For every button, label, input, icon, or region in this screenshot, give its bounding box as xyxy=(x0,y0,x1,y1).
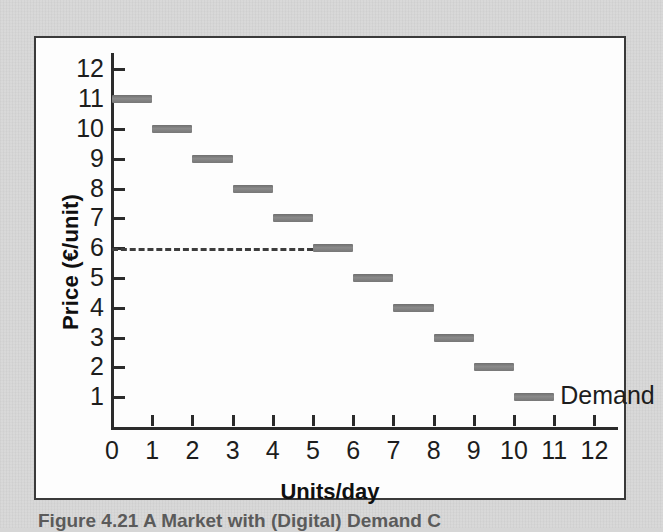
demand-bar-segment xyxy=(152,125,192,133)
y-tick xyxy=(114,217,125,220)
y-tick-label: 12 xyxy=(48,56,104,81)
y-tick xyxy=(114,277,125,280)
chart-plot-area: 123456789101112 0123456789101112 Demand … xyxy=(36,38,624,498)
demand-bar-segment xyxy=(233,185,273,193)
demand-bar-segment xyxy=(112,95,152,103)
demand-bar-segment xyxy=(273,214,313,222)
y-tick xyxy=(114,337,125,340)
x-tick xyxy=(191,415,194,426)
y-tick-label: 2 xyxy=(48,354,104,379)
x-tick xyxy=(392,415,395,426)
y-tick xyxy=(114,307,125,310)
y-axis-title: Price (€/unit) xyxy=(58,194,84,330)
y-tick-label: 11 xyxy=(48,86,104,111)
y-tick-label: 10 xyxy=(48,116,104,141)
x-tick-label: 12 xyxy=(564,438,624,463)
x-tick xyxy=(473,415,476,426)
demand-bar-segment xyxy=(313,244,353,252)
y-tick xyxy=(114,396,125,399)
figure-caption: Figure 4.21 A Market with (Digital) Dema… xyxy=(38,510,658,532)
x-tick xyxy=(593,415,596,426)
demand-series-label: Demand xyxy=(560,381,655,410)
x-tick xyxy=(553,415,556,426)
y-tick xyxy=(114,188,125,191)
y-axis-line xyxy=(111,53,114,427)
x-tick xyxy=(312,415,315,426)
figure-panel: 123456789101112 0123456789101112 Demand … xyxy=(34,36,626,500)
demand-bar-segment xyxy=(353,274,393,282)
x-tick xyxy=(352,415,355,426)
price-reference-dashed-line xyxy=(112,248,313,251)
demand-bar-segment xyxy=(393,304,433,312)
demand-bar-segment xyxy=(474,363,514,371)
y-tick xyxy=(114,366,125,369)
x-axis-line xyxy=(111,427,618,430)
y-tick xyxy=(114,128,125,131)
x-tick xyxy=(272,415,275,426)
demand-bar-segment xyxy=(434,334,474,342)
x-tick xyxy=(433,415,436,426)
x-tick xyxy=(232,415,235,426)
y-tick xyxy=(114,158,125,161)
x-tick xyxy=(513,415,516,426)
y-tick xyxy=(114,68,125,71)
x-tick xyxy=(151,415,154,426)
x-axis-title: Units/day xyxy=(36,479,624,505)
y-tick-label: 1 xyxy=(48,384,104,409)
demand-bar-segment xyxy=(514,393,554,401)
y-tick-label: 9 xyxy=(48,146,104,171)
demand-bar-segment xyxy=(192,155,232,163)
